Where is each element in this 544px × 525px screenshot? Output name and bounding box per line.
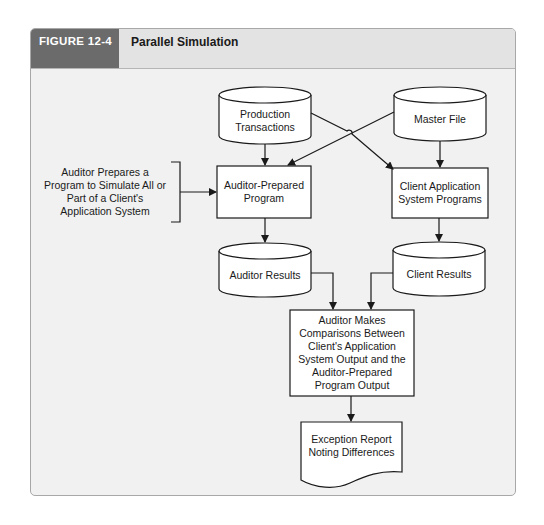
comparison-label: Auditor Makes Comparisons Between Client… [294, 312, 410, 394]
arrow-auditor-results-to-comparison [311, 273, 333, 309]
arrow-client-results-to-comparison [371, 273, 393, 309]
annotation-bracket [171, 162, 180, 222]
client-programs-label: Client Application System Programs [396, 169, 484, 217]
production-transactions-label: Production Transactions [222, 104, 308, 138]
master-file-label: Master File [396, 104, 484, 134]
annotation-label: Auditor Prepares a Program to Simulate A… [42, 162, 168, 222]
auditor-results-label: Auditor Results [221, 262, 309, 288]
arrow-transactions-to-client [311, 113, 393, 169]
exception-report-label: Exception Report Noting Differences [303, 424, 400, 468]
client-results-label: Client Results [395, 261, 483, 287]
auditor-program-label: Auditor-Prepared Program [219, 168, 309, 216]
